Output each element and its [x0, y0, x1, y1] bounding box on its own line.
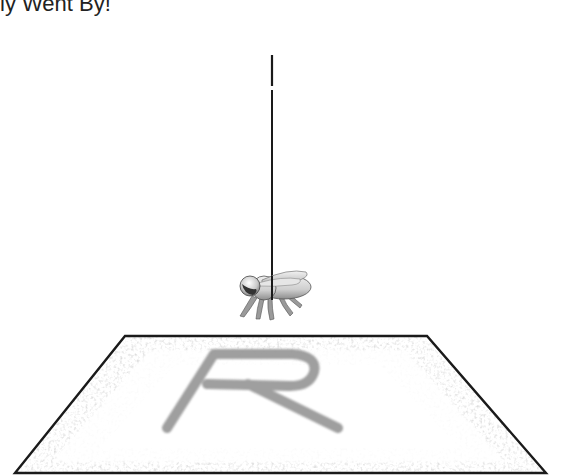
fly: [240, 271, 311, 320]
scene-illustration: [0, 0, 570, 475]
landing-platform: [0, 330, 570, 475]
